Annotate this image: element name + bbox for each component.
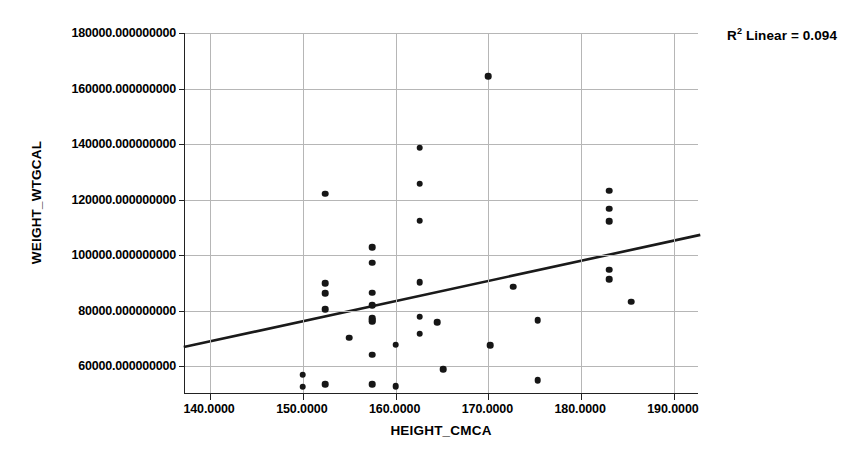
x-gridline	[488, 33, 489, 393]
scatter-point	[392, 383, 399, 390]
y-axis-tick-label: 140000.000000000	[0, 137, 176, 151]
y-axis-tick-label: 180000.000000000	[0, 26, 176, 40]
y-gridline	[185, 255, 698, 256]
scatter-point	[416, 217, 423, 224]
y-axis-tick-label: 160000.000000000	[0, 82, 176, 96]
scatter-point	[300, 383, 307, 390]
y-axis-tick	[179, 89, 185, 90]
scatter-point	[369, 302, 376, 309]
scatter-point	[369, 319, 376, 326]
scatter-point	[485, 73, 492, 80]
scatter-point	[606, 276, 613, 283]
scatter-point	[369, 244, 376, 251]
y-gridline	[185, 144, 698, 145]
x-gridline	[303, 33, 304, 393]
scatter-point	[369, 381, 376, 388]
x-axis-tick-label: 150.0000	[276, 402, 327, 416]
x-axis-tick-label: 140.0000	[183, 402, 234, 416]
scatter-point	[346, 334, 353, 341]
y-gridline	[185, 89, 698, 90]
scatter-point	[606, 205, 613, 212]
y-axis-tick	[179, 144, 185, 145]
scatter-point	[434, 319, 441, 326]
x-axis-tick	[581, 394, 582, 400]
scatter-point	[416, 279, 423, 286]
scatter-point	[322, 190, 329, 197]
scatter-point	[510, 284, 517, 291]
y-axis-tick	[179, 33, 185, 34]
chart-canvas: 60000.00000000080000.000000000100000.000…	[0, 0, 849, 464]
x-axis-tick	[303, 394, 304, 400]
x-axis-title: HEIGHT_CMCA	[184, 423, 698, 438]
plot-area	[184, 33, 698, 394]
x-axis-tick	[488, 394, 489, 400]
scatter-point	[534, 377, 541, 384]
y-axis-tick	[179, 255, 185, 256]
scatter-point	[440, 366, 447, 373]
x-axis-tick-label: 190.0000	[647, 402, 698, 416]
r-squared-prefix: R	[727, 28, 737, 43]
scatter-point	[392, 341, 399, 348]
fit-line	[185, 33, 699, 394]
scatter-point	[534, 317, 541, 324]
scatter-point	[416, 144, 423, 151]
scatter-point	[628, 299, 635, 306]
x-axis-tick-label: 170.0000	[462, 402, 513, 416]
scatter-point	[369, 289, 376, 296]
r-squared-annotation: R2 Linear = 0.094	[727, 26, 837, 43]
x-axis-tick	[210, 394, 211, 400]
x-gridline	[581, 33, 582, 393]
x-gridline	[674, 33, 675, 393]
x-gridline	[396, 33, 397, 393]
scatter-point	[416, 180, 423, 187]
y-axis-tick-label: 120000.000000000	[0, 193, 176, 207]
scatter-point	[487, 342, 494, 349]
y-gridline	[185, 200, 698, 201]
y-gridline	[185, 311, 698, 312]
y-axis-tick-label: 80000.000000000	[0, 304, 176, 318]
y-gridline	[185, 33, 698, 34]
x-axis-tick	[396, 394, 397, 400]
x-gridline	[210, 33, 211, 393]
scatter-point	[322, 280, 329, 287]
x-axis-tick-label: 180.0000	[554, 402, 605, 416]
scatter-point	[606, 187, 613, 194]
scatter-point	[606, 266, 613, 273]
scatter-point	[369, 351, 376, 358]
y-axis-tick	[179, 311, 185, 312]
scatter-point	[369, 259, 376, 266]
scatter-point	[606, 218, 613, 225]
y-axis-title: WEIGHT_WTGCAL	[29, 103, 44, 303]
x-axis-tick	[674, 394, 675, 400]
y-axis-tick	[179, 200, 185, 201]
r-squared-suffix: Linear = 0.094	[742, 28, 837, 43]
y-axis-tick	[179, 366, 185, 367]
scatter-point	[416, 314, 423, 321]
scatter-point	[322, 381, 329, 388]
y-axis-tick-label: 60000.000000000	[0, 359, 176, 373]
scatter-point	[322, 290, 329, 297]
scatter-point	[416, 330, 423, 337]
y-axis-tick-label: 100000.000000000	[0, 248, 176, 262]
scatter-point	[322, 306, 329, 313]
x-axis-tick-label: 160.0000	[369, 402, 420, 416]
scatter-point	[300, 371, 307, 378]
